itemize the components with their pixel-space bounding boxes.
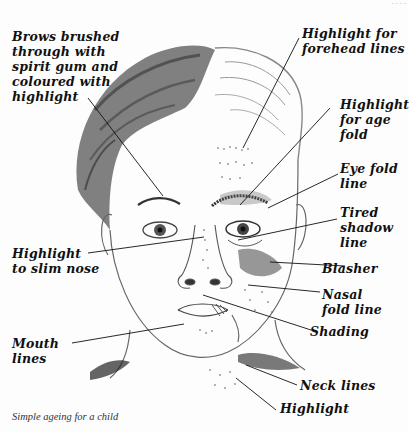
label-shading: Shading: [310, 324, 369, 339]
label-blasher: Blasher: [322, 261, 377, 276]
label-neck-highlight: Highlight: [280, 401, 349, 416]
label-nasal-fold: Nasal fold line: [322, 287, 382, 317]
label-tired-shadow: Tired shadow line: [340, 205, 393, 250]
label-age-fold: Highlight for age fold: [340, 97, 409, 142]
label-eye-fold: Eye fold line: [340, 161, 398, 191]
figure-caption: Simple ageing for a child: [12, 411, 118, 422]
label-slim-nose: Highlight to slim nose: [12, 246, 99, 276]
nose: [178, 225, 231, 288]
label-neck-lines: Neck lines: [300, 378, 376, 393]
label-brows: Brows brushed through with spirit gum an…: [12, 29, 119, 104]
eyes: [143, 221, 262, 246]
label-forehead-lines: Highlight for forehead lines: [302, 26, 405, 56]
mouth: [178, 304, 239, 342]
label-mouth-lines: Mouth lines: [12, 336, 59, 366]
